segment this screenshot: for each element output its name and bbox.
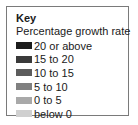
legend-items: 20 or above 15 to 20 10 to 15 5 to 10 0 … bbox=[16, 39, 92, 121]
legend-label: 20 or above bbox=[34, 40, 92, 52]
color-swatch-icon bbox=[16, 83, 32, 90]
color-swatch-icon bbox=[16, 42, 32, 49]
legend-label: 5 to 10 bbox=[34, 81, 68, 93]
legend-item-5-to-10: 5 to 10 bbox=[16, 80, 92, 94]
legend-label: 15 to 20 bbox=[34, 53, 74, 65]
legend-item-10-to-15: 10 to 15 bbox=[16, 66, 92, 80]
legend-label: 10 to 15 bbox=[34, 67, 74, 79]
color-swatch-icon bbox=[16, 56, 32, 63]
color-swatch-icon bbox=[16, 110, 32, 117]
legend-item-15-to-20: 15 to 20 bbox=[16, 53, 92, 67]
legend-label: 0 to 5 bbox=[34, 94, 62, 106]
legend-item-20-or-above: 20 or above bbox=[16, 39, 92, 53]
legend-key-box: Key Percentage growth rate 20 or above 1… bbox=[6, 6, 129, 116]
legend-item-0-to-5: 0 to 5 bbox=[16, 93, 92, 107]
legend-label: below 0 bbox=[34, 108, 72, 120]
legend-title: Key bbox=[16, 12, 36, 24]
legend-item-below-0: below 0 bbox=[16, 107, 92, 121]
legend-subtitle: Percentage growth rate bbox=[16, 25, 130, 37]
color-swatch-icon bbox=[16, 69, 32, 76]
color-swatch-icon bbox=[16, 97, 32, 104]
